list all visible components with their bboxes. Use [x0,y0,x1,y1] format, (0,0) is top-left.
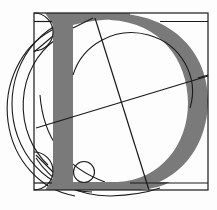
letter-d-construction [0,0,217,210]
diagram-canvas: Geometric construction of the letter D [0,0,217,210]
letter-d [45,13,208,190]
inner-circle [73,18,192,108]
steep-diagonal [95,18,149,190]
large-left-arcs [7,16,160,196]
inner-large-arc [23,40,55,165]
letter-d-stem [53,13,73,190]
